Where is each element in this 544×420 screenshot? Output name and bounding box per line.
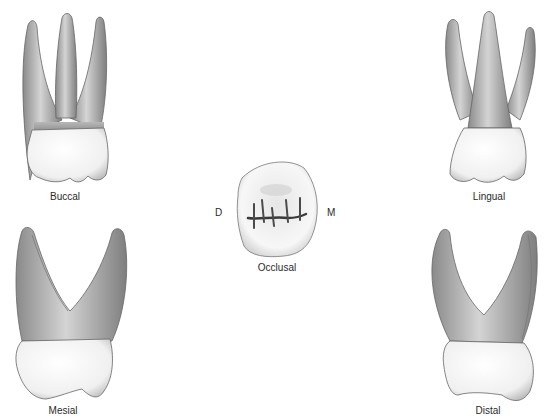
mesial-tooth-illustration xyxy=(0,215,150,420)
mesial-direction-label: M xyxy=(327,207,335,218)
distal-tooth-illustration xyxy=(410,215,544,420)
distal-label: Distal xyxy=(475,405,500,416)
lingual-tooth-illustration xyxy=(420,0,544,205)
lingual-label: Lingual xyxy=(473,191,505,202)
occlusal-view: D M Occlusal xyxy=(200,150,350,280)
distal-direction-label: D xyxy=(215,207,222,218)
buccal-tooth-illustration xyxy=(0,0,140,205)
mesial-view: Mesial xyxy=(0,215,150,420)
buccal-view: Buccal xyxy=(0,0,140,205)
occlusal-label: Occlusal xyxy=(258,262,296,273)
mesial-label: Mesial xyxy=(49,405,78,416)
distal-view: Distal xyxy=(410,215,544,420)
buccal-label: Buccal xyxy=(50,191,80,202)
lingual-view: Lingual xyxy=(420,0,544,205)
